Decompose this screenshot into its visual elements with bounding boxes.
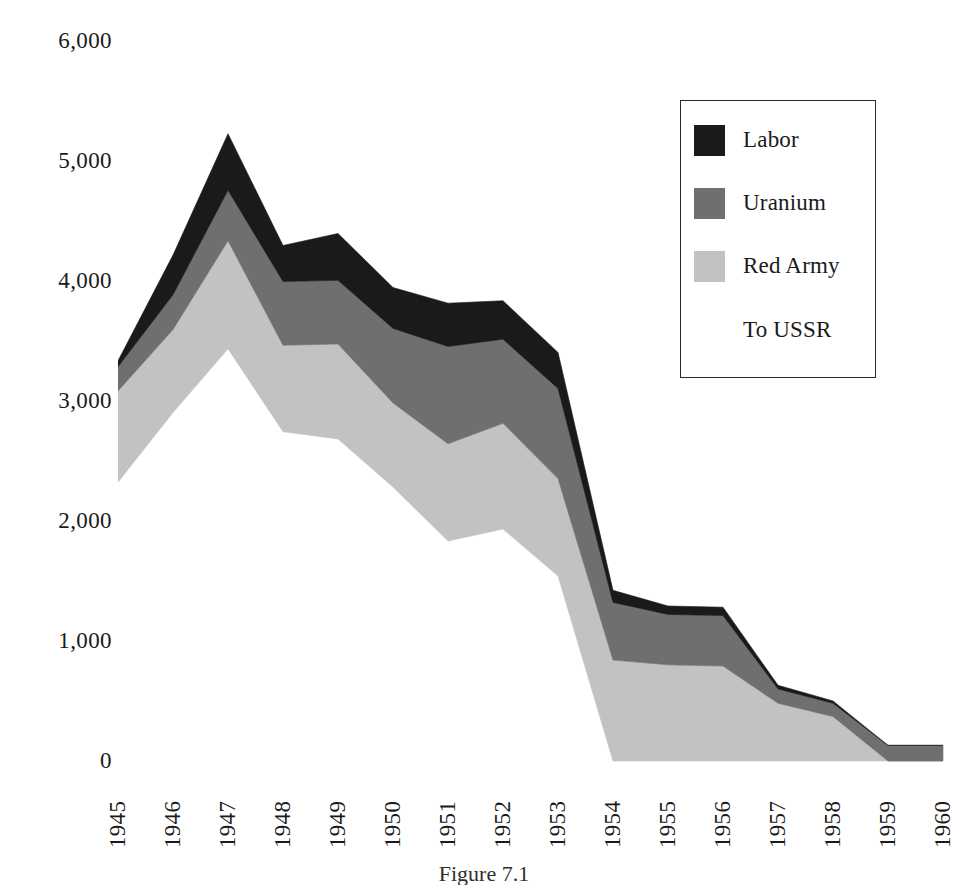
x-tick-label-1957: 1957 (765, 772, 791, 848)
x-tick-label-1950: 1950 (380, 772, 406, 848)
x-tick-label-1945: 1945 (105, 772, 131, 848)
y-tick-label-0: 0 (4, 749, 112, 772)
x-tick-label-1951: 1951 (435, 772, 461, 848)
x-tick-label-1947: 1947 (215, 772, 241, 848)
legend-item-uranium[interactable]: Uranium (694, 186, 826, 220)
x-axis: 1945194619471948194919501951195219531954… (0, 772, 968, 852)
y-tick-label-2000: 2,000 (4, 509, 112, 532)
x-tick-label-1954: 1954 (600, 772, 626, 848)
legend-label: Red Army (743, 254, 840, 278)
legend-swatch-icon (694, 188, 725, 219)
y-tick-label-5000: 5,000 (4, 149, 112, 172)
legend-label: Labor (743, 128, 799, 152)
y-tick-label-6000: 6,000 (4, 29, 112, 52)
x-tick-label-1953: 1953 (545, 772, 571, 848)
legend-item-labor[interactable]: Labor (694, 123, 799, 157)
y-axis: 6,000 5,000 4,000 3,000 2,000 1,000 0 (0, 0, 112, 885)
x-tick-label-1948: 1948 (270, 772, 296, 848)
x-tick-label-1958: 1958 (820, 772, 846, 848)
x-tick-label-1956: 1956 (710, 772, 736, 848)
legend: LaborUraniumRed ArmyTo USSR (680, 100, 876, 378)
x-tick-label-1952: 1952 (490, 772, 516, 848)
x-tick-label-1946: 1946 (160, 772, 186, 848)
figure-caption: Figure 7.1 (0, 862, 968, 885)
figure-7-1: 6,000 5,000 4,000 3,000 2,000 1,000 0 19… (0, 0, 968, 885)
legend-label: Uranium (743, 191, 826, 215)
x-tick-label-1960: 1960 (930, 772, 956, 848)
legend-swatch-icon (694, 315, 725, 346)
legend-item-to-ussr[interactable]: To USSR (694, 313, 832, 347)
x-tick-label-1949: 1949 (325, 772, 351, 848)
legend-swatch-icon (694, 125, 725, 156)
y-tick-label-4000: 4,000 (4, 269, 112, 292)
y-tick-label-1000: 1,000 (4, 629, 112, 652)
legend-item-red-army[interactable]: Red Army (694, 249, 840, 283)
legend-label: To USSR (743, 318, 832, 342)
x-tick-label-1959: 1959 (875, 772, 901, 848)
y-tick-label-3000: 3,000 (4, 389, 112, 412)
legend-swatch-icon (694, 251, 725, 282)
x-tick-label-1955: 1955 (655, 772, 681, 848)
